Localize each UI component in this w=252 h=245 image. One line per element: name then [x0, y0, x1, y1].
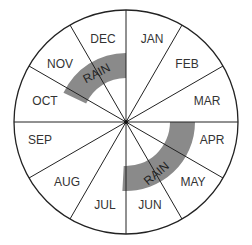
month-label-aug: AUG	[54, 175, 80, 189]
month-wheel-diagram: JANFEBMARAPRMAYJUNJULAUGSEPOCTNOVDEC RAI…	[0, 0, 252, 245]
month-label-mar: MAR	[194, 94, 221, 108]
month-label-dec: DEC	[90, 32, 116, 46]
month-label-sep: SEP	[28, 133, 52, 147]
month-label-nov: NOV	[47, 57, 73, 71]
month-label-jul: JUL	[94, 198, 116, 212]
month-label-may: MAY	[180, 175, 205, 189]
month-label-jun: JUN	[138, 198, 161, 212]
center-hub	[124, 120, 128, 124]
month-label-oct: OCT	[32, 94, 58, 108]
month-label-feb: FEB	[175, 57, 198, 71]
month-divider	[29, 122, 126, 178]
month-label-apr: APR	[200, 133, 225, 147]
month-label-jan: JAN	[141, 32, 164, 46]
